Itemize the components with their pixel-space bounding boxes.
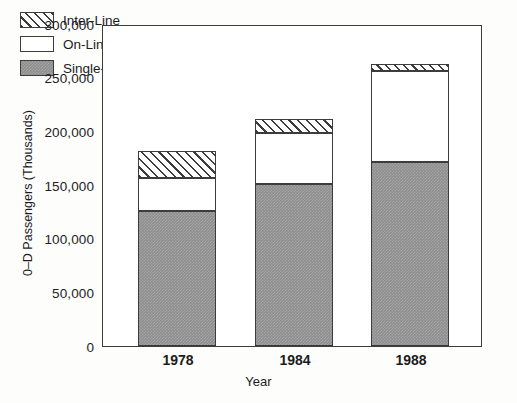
y-tick-label-300000: 300,000 [45, 18, 95, 33]
y-tick-label-150000: 150,000 [45, 179, 95, 194]
plot-area [102, 25, 482, 347]
y-tick-label-50000: 50,000 [52, 286, 94, 301]
bar-segment-1978-single-plane[interactable] [138, 211, 216, 346]
x-tick-label-1988: 1988 [395, 352, 426, 368]
x-tick-label-1978: 1978 [162, 352, 193, 368]
bar-segment-1988-on-line[interactable] [371, 71, 449, 162]
y-axis-title: 0–D Passengers (Thousands) [21, 73, 35, 313]
bar-segment-1978-on-line[interactable] [138, 178, 216, 211]
x-axis-title: Year [0, 374, 517, 389]
bar-segment-1984-on-line[interactable] [255, 133, 333, 184]
bar-stack-1984[interactable] [255, 119, 333, 346]
bar-stack-1988[interactable] [371, 64, 449, 346]
bar-segment-1984-inter-line[interactable] [255, 119, 333, 133]
y-tick-label-100000: 100,000 [45, 232, 95, 247]
y-tick-label-250000: 250,000 [45, 71, 95, 86]
bar-segment-1988-single-plane[interactable] [371, 162, 449, 346]
chart-figure: Inter-Line On-Line Single-Plane 300,000 … [0, 0, 517, 403]
bar-stack-1978[interactable] [138, 151, 216, 346]
bar-segment-1978-inter-line[interactable] [138, 151, 216, 178]
y-axis-tick-labels: 300,000 250,000 200,000 150,000 100,000 … [0, 0, 94, 403]
x-tick-label-1984: 1984 [279, 352, 310, 368]
bar-segment-1984-single-plane[interactable] [255, 184, 333, 346]
y-tick-label-200000: 200,000 [45, 125, 95, 140]
bar-segment-1988-inter-line[interactable] [371, 64, 449, 71]
y-tick-label-0: 0 [86, 340, 94, 355]
